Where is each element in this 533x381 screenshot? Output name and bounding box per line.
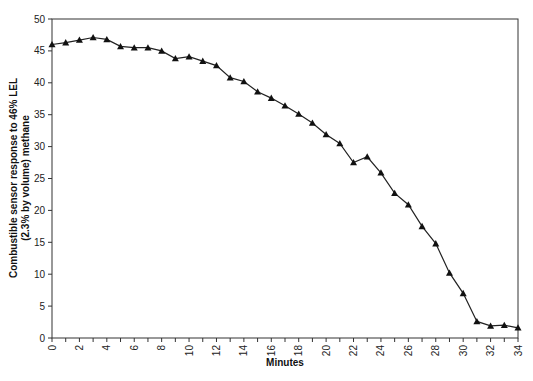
y-axis-title-line2: (2.3% by volume) methane [20, 78, 32, 278]
triangle-marker [364, 153, 371, 159]
triangle-marker [446, 269, 453, 275]
y-tick-label: 5 [39, 301, 45, 312]
x-tick-label: 28 [430, 345, 441, 357]
triangle-marker [309, 119, 316, 125]
x-tick-label: 0 [47, 345, 58, 351]
x-tick-label: 6 [129, 345, 140, 351]
x-tick-label: 32 [485, 345, 496, 357]
x-axis: 0246810121416182022242628303234 [47, 338, 524, 356]
triangle-marker [186, 53, 193, 59]
x-tick-label: 18 [293, 345, 304, 357]
triangle-marker [295, 111, 302, 117]
x-tick-label: 2 [74, 345, 85, 351]
triangle-marker [90, 34, 97, 40]
x-tick-label: 30 [458, 345, 469, 357]
triangle-marker [473, 318, 480, 324]
x-tick-label: 14 [238, 345, 249, 357]
x-tick-label: 34 [513, 345, 524, 357]
data-series [49, 34, 522, 331]
x-tick-label: 22 [348, 345, 359, 357]
x-tick-label: 20 [321, 345, 332, 357]
y-tick-label: 0 [39, 333, 45, 344]
x-tick-label: 4 [101, 345, 112, 351]
triangle-marker [336, 140, 343, 146]
x-tick-label: 10 [184, 345, 195, 357]
triangle-marker [460, 290, 467, 296]
x-tick-label: 24 [375, 345, 386, 357]
x-axis-title: Minutes [266, 357, 304, 368]
triangle-marker [268, 95, 275, 101]
y-axis-title-line1: Combustible sensor response to 46% LEL [8, 78, 20, 278]
x-tick-label: 26 [403, 345, 414, 357]
triangle-marker [419, 223, 426, 229]
y-axis-title: Combustible sensor response to 46% LEL (… [8, 78, 32, 278]
x-tick-label: 8 [156, 345, 167, 351]
line-chart: 05101520253035404550 0246810121416182022… [0, 0, 533, 381]
y-axis-title-wrap: Combustible sensor response to 46% LEL (… [0, 0, 40, 338]
series-line [52, 38, 518, 328]
plot-frame [52, 19, 518, 338]
x-tick-label: 16 [266, 345, 277, 357]
x-tick-label: 12 [211, 345, 222, 357]
triangle-marker [282, 102, 289, 108]
